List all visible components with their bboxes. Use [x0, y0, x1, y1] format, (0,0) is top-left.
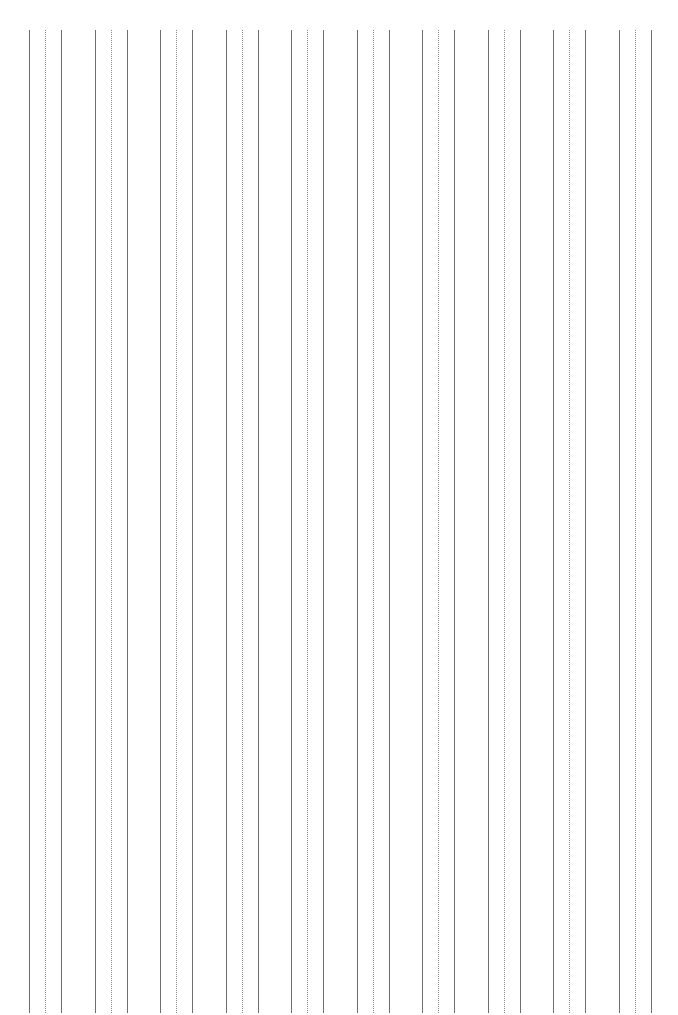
solid-guide-line — [160, 30, 161, 1013]
solid-guide-line — [454, 30, 455, 1013]
solid-guide-line — [422, 30, 423, 1013]
ruled-page — [0, 0, 678, 1015]
solid-guide-line — [389, 30, 390, 1013]
solid-guide-line — [553, 30, 554, 1013]
dotted-guide-line — [569, 30, 570, 1013]
solid-guide-line — [488, 30, 489, 1013]
dotted-guide-line — [373, 30, 374, 1013]
dotted-guide-line — [438, 30, 439, 1013]
dotted-guide-line — [176, 30, 177, 1013]
solid-guide-line — [95, 30, 96, 1013]
solid-guide-line — [651, 30, 652, 1013]
dotted-guide-line — [45, 30, 46, 1013]
solid-guide-line — [323, 30, 324, 1013]
solid-guide-line — [192, 30, 193, 1013]
solid-guide-line — [520, 30, 521, 1013]
solid-guide-line — [127, 30, 128, 1013]
solid-guide-line — [226, 30, 227, 1013]
solid-guide-line — [291, 30, 292, 1013]
solid-guide-line — [585, 30, 586, 1013]
dotted-guide-line — [307, 30, 308, 1013]
solid-guide-line — [258, 30, 259, 1013]
dotted-guide-line — [111, 30, 112, 1013]
solid-guide-line — [29, 30, 30, 1013]
dotted-guide-line — [242, 30, 243, 1013]
solid-guide-line — [61, 30, 62, 1013]
dotted-guide-line — [504, 30, 505, 1013]
solid-guide-line — [357, 30, 358, 1013]
solid-guide-line — [619, 30, 620, 1013]
dotted-guide-line — [635, 30, 636, 1013]
